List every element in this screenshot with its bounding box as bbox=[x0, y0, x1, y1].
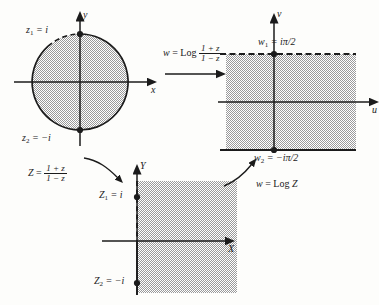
z1-label: z1 = i bbox=[26, 24, 48, 37]
Z2-point bbox=[134, 280, 140, 286]
Z1-label: Z1 = i bbox=[99, 189, 123, 202]
w-plane-u-axis-label: u bbox=[372, 104, 377, 115]
right-map-formula: w = Log Z bbox=[256, 178, 297, 189]
w-plane-v-axis-label: v bbox=[277, 8, 281, 19]
Z2-label: Z2 = −i bbox=[94, 275, 124, 288]
Z-plane-X-axis-label: X bbox=[228, 243, 234, 254]
top-map-formula: w = Log 1 + z1 − z bbox=[163, 44, 222, 64]
z2-label: z2 = −i bbox=[22, 132, 51, 145]
w-plane-svg bbox=[218, 12, 378, 152]
z-plane-y-axis-label: y bbox=[83, 9, 87, 20]
left-map-formula: Z = 1 + z1 − z bbox=[28, 164, 67, 184]
z1-point bbox=[77, 31, 83, 37]
w1-label: w1 = iπ/2 bbox=[258, 36, 296, 49]
w-plane-diagram: u v w1 = iπ/2 w2 = −iπ/2 bbox=[218, 12, 378, 152]
z-plane-x-axis-label: x bbox=[151, 84, 155, 95]
conformal-mapping-figure: x y z1 = i z2 = −i w = Log 1 + z1 − z bbox=[0, 0, 379, 305]
w1-point bbox=[271, 51, 277, 57]
z-plane-diagram: x y z1 = i z2 = −i bbox=[8, 12, 168, 152]
Z1-point bbox=[134, 194, 140, 200]
right-map-annotation: w = Log Z bbox=[222, 158, 332, 202]
Z-plane-Y-axis-label: Y bbox=[140, 160, 146, 171]
z2-point bbox=[77, 127, 83, 133]
